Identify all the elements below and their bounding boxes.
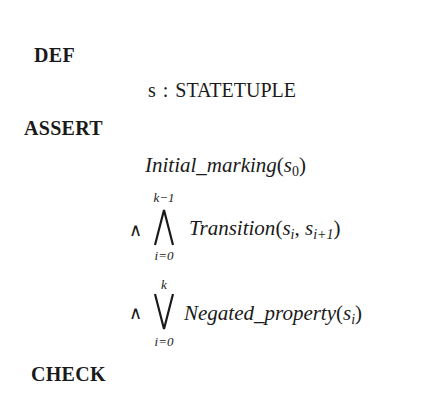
negated-property-formula: Negated_property(si) — [184, 301, 362, 328]
state-declaration: s : STATETUPLE — [148, 79, 296, 102]
arg2: s — [305, 216, 313, 240]
close-paren: ) — [333, 216, 340, 240]
upper-limit: k−1 — [146, 190, 182, 206]
close-paren: ) — [355, 301, 362, 325]
upper-limit-text: k−1 — [153, 190, 174, 205]
lower-limit-text: i=0 — [155, 334, 174, 349]
arg-subscript: 0 — [292, 164, 299, 179]
arg: s — [284, 153, 292, 177]
lower-limit: i=0 — [146, 334, 182, 350]
close-paren: ) — [299, 153, 306, 177]
open-paren: ( — [277, 153, 284, 177]
check-keyword: CHECK — [31, 363, 106, 386]
and-connective: ∧ — [129, 302, 142, 323]
assert-keyword: ASSERT — [24, 117, 103, 140]
def-keyword: DEF — [34, 44, 75, 67]
upper-limit-text: k — [161, 277, 167, 292]
arg2-subscript: i+1 — [313, 227, 333, 242]
transition-formula: Transition(si, si+1) — [189, 216, 340, 243]
declaration-separator: : — [163, 79, 169, 101]
declaration-variable: s — [148, 79, 156, 101]
declaration-type: STATETUPLE — [175, 79, 296, 101]
predicate-name: Initial_marking — [145, 153, 277, 177]
open-paren: ( — [336, 301, 343, 325]
initial-marking-formula: Initial_marking(s0) — [145, 153, 306, 180]
lower-limit-text: i=0 — [155, 248, 174, 263]
and-connective: ∧ — [129, 219, 142, 240]
lower-limit: i=0 — [146, 248, 182, 264]
upper-limit: k — [146, 277, 182, 293]
arg1: s — [282, 216, 290, 240]
predicate-name: Transition — [189, 216, 275, 240]
big-and-icon — [153, 208, 175, 246]
comma: , — [294, 216, 305, 240]
predicate-name: Negated_property — [184, 301, 336, 325]
big-or-icon — [153, 293, 175, 331]
arg: s — [343, 301, 351, 325]
